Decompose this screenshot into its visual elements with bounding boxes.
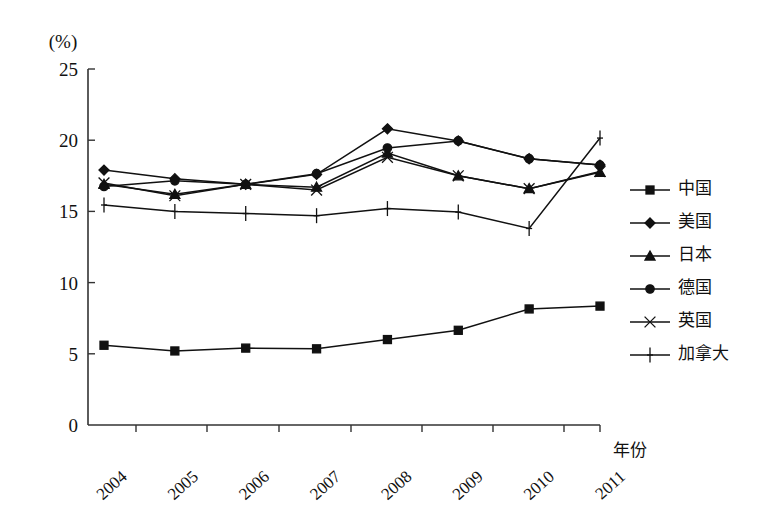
data-point-plus bbox=[455, 205, 461, 220]
data-point-square bbox=[100, 341, 108, 349]
y-tick-label: 10 bbox=[59, 273, 78, 294]
x-tick-label: 2007 bbox=[306, 467, 344, 504]
data-point-plus bbox=[526, 221, 532, 236]
data-point-diamond bbox=[99, 165, 109, 175]
x-tick-label: 2008 bbox=[377, 467, 415, 504]
legend-item-1[interactable]: 中国 bbox=[630, 179, 712, 198]
legend-marker-circle-icon bbox=[646, 285, 654, 293]
legend-marker-plus-icon bbox=[647, 348, 653, 363]
data-point-plus bbox=[172, 204, 178, 219]
data-point-square bbox=[171, 347, 179, 355]
legend-item-label: 美国 bbox=[678, 212, 712, 231]
data-point-diamond bbox=[382, 124, 392, 134]
legend-item-2[interactable]: 美国 bbox=[630, 212, 712, 231]
x-axis-ticks: 20042005200620072008200920102011 bbox=[93, 425, 629, 504]
data-point-circle bbox=[312, 169, 320, 177]
data-point-circle bbox=[525, 155, 533, 163]
legend-item-6[interactable]: 加拿大 bbox=[630, 343, 729, 363]
y-axis-ticks: 0510152025 bbox=[59, 59, 95, 436]
y-tick-label: 15 bbox=[59, 201, 78, 222]
data-point-square bbox=[242, 344, 250, 352]
legend-item-4[interactable]: 德国 bbox=[630, 278, 712, 297]
data-point-square bbox=[596, 302, 604, 310]
x-axis-title: 年份 bbox=[613, 441, 647, 460]
data-point-circle bbox=[383, 144, 391, 152]
data-point-square bbox=[313, 345, 321, 353]
line-chart: (%) 0510152025 2004200520062007200820092… bbox=[0, 0, 772, 512]
data-point-circle bbox=[454, 137, 462, 145]
data-point-circle bbox=[171, 177, 179, 185]
data-point-plus bbox=[597, 131, 603, 146]
data-point-plus bbox=[384, 201, 390, 216]
x-tick-label: 2004 bbox=[93, 467, 131, 504]
x-tick-label: 2009 bbox=[449, 467, 487, 504]
x-tick-label: 2011 bbox=[592, 467, 630, 503]
series-square bbox=[100, 302, 604, 355]
x-tick-label: 2010 bbox=[520, 467, 558, 504]
data-point-plus bbox=[101, 197, 107, 212]
legend-marker-square-icon bbox=[646, 186, 654, 194]
y-tick-label: 5 bbox=[69, 344, 79, 365]
data-point-square bbox=[525, 305, 533, 313]
legend-item-label: 英国 bbox=[678, 311, 712, 330]
legend-item-5[interactable]: 英国 bbox=[630, 311, 712, 330]
y-tick-label: 0 bbox=[69, 415, 79, 436]
series-layer bbox=[99, 124, 606, 355]
y-axis-unit-label: (%) bbox=[49, 31, 77, 53]
y-tick-label: 25 bbox=[59, 59, 78, 80]
data-point-plus bbox=[243, 206, 249, 221]
legend-item-label: 中国 bbox=[678, 179, 712, 198]
x-tick-label: 2006 bbox=[235, 467, 273, 504]
data-point-square bbox=[383, 336, 391, 344]
chart-legend: 中国美国日本德国英国加拿大 bbox=[630, 179, 729, 363]
y-tick-label: 20 bbox=[59, 130, 78, 151]
legend-item-label: 德国 bbox=[678, 278, 712, 297]
legend-item-label: 日本 bbox=[678, 245, 712, 264]
legend-item-label: 加拿大 bbox=[678, 343, 729, 363]
legend-item-3[interactable]: 日本 bbox=[630, 245, 712, 264]
chart-canvas: (%) 0510152025 2004200520062007200820092… bbox=[0, 0, 772, 512]
legend-marker-diamond-icon bbox=[645, 218, 655, 228]
x-tick-label: 2005 bbox=[164, 467, 202, 504]
data-point-square bbox=[454, 326, 462, 334]
data-point-plus bbox=[314, 208, 320, 223]
